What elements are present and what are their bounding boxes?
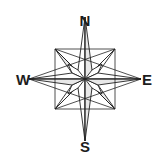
compass-rose-graphic: N E S W (0, 0, 163, 155)
label-south: S (80, 138, 90, 155)
compass-rose-figure: N E S W (0, 0, 163, 155)
label-west: W (16, 71, 31, 88)
label-east: E (142, 71, 152, 88)
label-north: N (80, 12, 91, 29)
